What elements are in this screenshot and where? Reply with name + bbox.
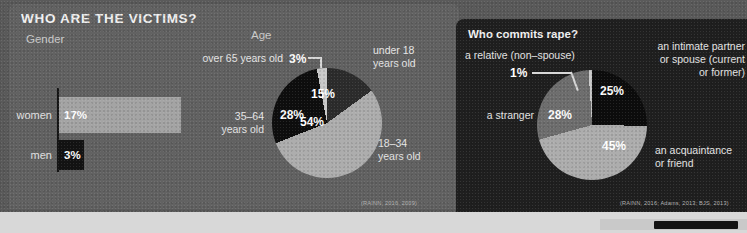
age-category-35-64: 35–64 years old bbox=[196, 110, 264, 136]
age-category-under18-line1: under 18 bbox=[373, 44, 416, 57]
horizontal-scrollbar-thumb[interactable] bbox=[654, 221, 738, 229]
perp-category-partner: an intimate partner or spouse (current o… bbox=[633, 40, 745, 79]
age-chart-source: (RAINN, 2016, 2009) bbox=[361, 200, 417, 206]
infographic-root: WHO ARE THE VICTIMS? Gender Age Who comm… bbox=[0, 0, 747, 233]
perp-category-partner-line1: an intimate partner bbox=[633, 40, 745, 53]
perpetrator-pie-chart bbox=[537, 70, 647, 180]
age-category-35-64-line1: 35–64 bbox=[196, 110, 264, 123]
perp-pct-relative: 1% bbox=[510, 66, 527, 80]
age-category-35-64-line2: years old bbox=[196, 123, 264, 136]
age-section-label: Age bbox=[251, 29, 271, 41]
perp-pct-stranger: 28% bbox=[548, 108, 572, 122]
bar-value-men: 3% bbox=[64, 149, 81, 161]
age-category-18-34: 18–34 years old bbox=[378, 137, 421, 163]
bar-label-men: men bbox=[8, 149, 52, 161]
age-category-under18-line2: years old bbox=[373, 57, 416, 70]
age-category-18-34-line1: 18–34 bbox=[378, 137, 421, 150]
perpetrators-panel-title: Who commits rape? bbox=[468, 28, 578, 40]
bar-value-women: 17% bbox=[64, 109, 87, 121]
gender-section-label: Gender bbox=[26, 33, 64, 45]
perp-category-acquaintance-line2: or friend bbox=[655, 157, 732, 170]
perp-category-stranger: a stranger bbox=[462, 109, 534, 122]
perp-pct-partner: 25% bbox=[600, 84, 624, 98]
bar-men: 3% bbox=[59, 140, 84, 170]
age-pct-35-64: 28% bbox=[280, 108, 304, 122]
perp-category-partner-line3: or former) bbox=[633, 66, 745, 79]
age-pie-chart bbox=[272, 68, 382, 178]
perp-category-partner-line2: or spouse (current bbox=[633, 53, 745, 66]
perp-category-relative: a relative (non–spouse) bbox=[465, 49, 575, 62]
perp-category-acquaintance: an acquaintance or friend bbox=[655, 144, 732, 170]
perp-category-acquaintance-line1: an acquaintance bbox=[655, 144, 732, 157]
bar-women: 17% bbox=[59, 97, 181, 133]
age-leader-line-vertical bbox=[320, 57, 322, 68]
bar-label-women: women bbox=[8, 109, 52, 121]
perp-pct-acquaintance: 45% bbox=[602, 139, 626, 153]
age-pct-over65: 3% bbox=[289, 52, 306, 66]
perpetrator-chart-source: (RAINN, 2016; Adams, 2013; BJS, 2013) bbox=[620, 200, 729, 206]
infographic-canvas: WHO ARE THE VICTIMS? Gender Age Who comm… bbox=[0, 0, 747, 212]
page-title: WHO ARE THE VICTIMS? bbox=[21, 11, 197, 26]
age-category-18-34-line2: years old bbox=[378, 150, 421, 163]
age-pct-under18: 15% bbox=[311, 87, 335, 101]
age-category-under18: under 18 years old bbox=[373, 44, 416, 70]
age-category-over65: over 65 years old bbox=[178, 52, 283, 65]
perp-leader-line-horizontal bbox=[532, 72, 572, 74]
